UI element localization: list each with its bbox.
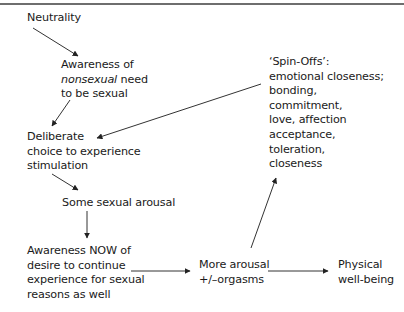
node-line: ‘Spin-Offs’: — [269, 55, 384, 70]
node-line: emotional closeness; — [269, 70, 384, 85]
node-more-arousal: More arousal +/–orgasms — [199, 258, 269, 287]
arrow-deliberate-to-some-arousal — [52, 174, 78, 190]
node-line: to be sexual — [61, 87, 148, 102]
node-awareness-nonsexual: Awareness of nonsexual need to be sexual — [61, 58, 148, 102]
node-line: love, affection — [269, 113, 384, 128]
arrow-more-arousal-to-spinoffs — [251, 178, 276, 248]
node-awareness-now: Awareness NOW of desire to continue expe… — [27, 244, 145, 302]
node-line: +/–orgasms — [199, 273, 269, 288]
node-line: toleration, — [269, 143, 384, 158]
arrow-neutrality-to-awareness — [33, 28, 78, 56]
node-spin-offs: ‘Spin-Offs’: emotional closeness; bondin… — [269, 55, 384, 172]
node-line: reasons as well — [27, 288, 145, 303]
node-line: Awareness of — [61, 58, 148, 73]
node-line-rest: need — [117, 73, 148, 86]
node-line: Awareness NOW of — [27, 244, 145, 259]
node-line: More arousal — [199, 258, 269, 273]
node-line: experience for sexual — [27, 273, 145, 288]
italic-word: nonsexual — [61, 73, 117, 86]
node-line: Deliberate — [27, 130, 141, 145]
node-physical-wellbeing: Physical well-being — [338, 258, 394, 287]
arrow-awareness-to-deliberate — [52, 100, 70, 126]
node-line: choice to experience — [27, 145, 141, 160]
node-line: Some sexual arousal — [62, 196, 175, 211]
node-line: Neutrality — [27, 11, 81, 26]
node-line: nonsexual need — [61, 73, 148, 88]
node-line: well-being — [338, 273, 394, 288]
node-line: bonding, — [269, 84, 384, 99]
node-line: closeness — [269, 157, 384, 172]
node-line: desire to continue — [27, 259, 145, 274]
node-line: stimulation — [27, 159, 141, 174]
node-deliberate-choice: Deliberate choice to experience stimulat… — [27, 130, 141, 174]
node-line: acceptance, — [269, 128, 384, 143]
node-line: commitment, — [269, 99, 384, 114]
node-neutrality: Neutrality — [27, 11, 81, 26]
node-line: Physical — [338, 258, 394, 273]
node-some-arousal: Some sexual arousal — [62, 196, 175, 211]
